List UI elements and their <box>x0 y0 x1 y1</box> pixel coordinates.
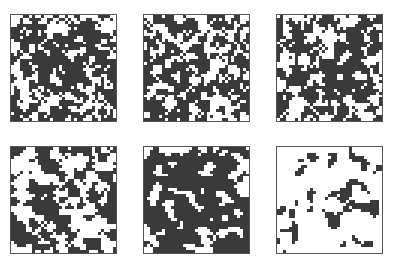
texture-panel-2 <box>143 14 250 122</box>
texture-panel-5 <box>143 146 250 254</box>
texture-panel-4 <box>10 146 117 254</box>
texture-panel-6 <box>276 146 383 254</box>
texture-image <box>11 15 116 121</box>
texture-panel-1 <box>10 14 117 122</box>
texture-image <box>144 147 249 253</box>
texture-image <box>144 15 249 121</box>
texture-image <box>11 147 116 253</box>
texture-image <box>277 147 382 253</box>
texture-panel-3 <box>276 14 383 122</box>
texture-image <box>277 15 382 121</box>
